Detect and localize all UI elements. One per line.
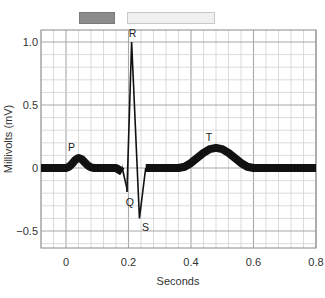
x-tick-label: 0.8 (308, 256, 323, 268)
x-tick-label: 0.6 (246, 256, 261, 268)
wave-label-q: Q (126, 196, 134, 208)
x-tick-label: 0 (63, 256, 69, 268)
wave-label-r: R (129, 27, 137, 39)
x-tick-label: 0.2 (121, 256, 136, 268)
wave-label-t: T (206, 131, 213, 143)
x-axis-label: Seconds (157, 275, 200, 287)
wave-label-s: S (142, 221, 149, 233)
chart-grid (41, 30, 316, 248)
y-tick-label: 0 (32, 162, 38, 174)
y-tick-label: −0.5 (16, 225, 38, 237)
y-tick-label: 1.0 (23, 36, 38, 48)
ecg-chart: 00.20.40.60.81.00.50−0.5 PQRST Seconds M… (0, 0, 325, 298)
x-tick-label: 0.4 (183, 256, 198, 268)
y-axis-label: Millivolts (mV) (2, 105, 14, 173)
axis-ticks: 00.20.40.60.81.00.50−0.5 (16, 36, 323, 268)
y-tick-label: 0.5 (23, 99, 38, 111)
wave-label-p: P (68, 141, 75, 153)
